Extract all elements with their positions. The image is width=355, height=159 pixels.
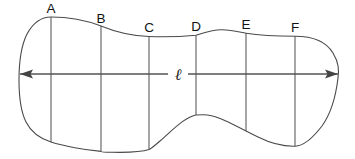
- irregular-area-diagram: A B C D E F ℓ: [0, 0, 355, 159]
- ordinate-label-e: E: [241, 17, 250, 32]
- area-outline-path: [19, 17, 338, 152]
- axis-length-label: ℓ: [175, 66, 182, 83]
- ordinate-label-a: A: [46, 1, 55, 16]
- figure-container: A B C D E F ℓ: [0, 0, 355, 159]
- ordinate-label-f: F: [291, 20, 299, 35]
- ordinate-label-c: C: [144, 20, 154, 35]
- ordinate-label-b: B: [96, 11, 105, 26]
- ordinate-label-d: D: [191, 19, 201, 34]
